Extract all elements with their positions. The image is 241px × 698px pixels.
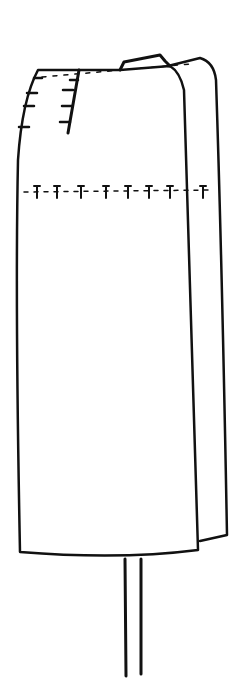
front-panel-outline <box>17 66 198 556</box>
skirt-illustration <box>0 0 241 698</box>
hanger-rod <box>125 559 141 676</box>
hip-stitch-line <box>24 190 210 192</box>
hip-tacks <box>34 186 206 198</box>
back-panel-outline <box>168 58 227 541</box>
